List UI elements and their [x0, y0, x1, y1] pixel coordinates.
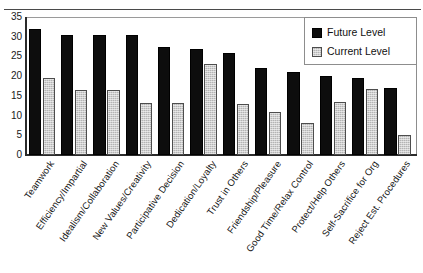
x-tick-label: Teamwork	[23, 159, 56, 201]
y-tick-label: 30	[0, 32, 22, 42]
bar-group	[190, 17, 222, 155]
bar-future-level	[255, 68, 268, 155]
legend-swatch-future-icon	[312, 28, 322, 38]
bar-future-level	[223, 53, 236, 156]
bar-future-level	[126, 35, 139, 155]
y-tick-label: 5	[0, 130, 22, 140]
bar-current-level	[204, 64, 217, 155]
bar-future-level	[384, 88, 397, 155]
bar-group	[93, 17, 125, 155]
bar-current-level	[366, 89, 379, 155]
bar-future-level	[352, 78, 365, 155]
x-axis-labels: TeamworkEfficiency/ImpartialIdealism/Col…	[0, 155, 423, 273]
bar-current-level	[107, 90, 120, 155]
bar-current-level	[334, 102, 347, 155]
bar-group	[158, 17, 190, 155]
y-tick-label: 15	[0, 91, 22, 101]
bar-group	[29, 17, 61, 155]
bar-current-level	[301, 123, 314, 155]
bar-current-level	[398, 135, 411, 155]
bar-current-level	[140, 103, 153, 155]
y-tick-label: 25	[0, 51, 22, 61]
bar-current-level	[172, 103, 185, 155]
bar-current-level	[269, 112, 282, 155]
legend-label-future: Future Level	[327, 27, 385, 38]
bar-future-level	[61, 35, 74, 155]
bar-group	[61, 17, 93, 155]
bar-current-level	[75, 90, 88, 155]
legend-swatch-current-icon	[312, 47, 322, 57]
legend-item-current: Current Level	[312, 43, 416, 60]
bar-group	[126, 17, 158, 155]
x-tick-label: Idealism/Collaboration	[58, 159, 121, 244]
bar-future-level	[29, 29, 42, 155]
legend-label-current: Current Level	[327, 46, 390, 57]
top-divider	[4, 9, 421, 10]
bar-current-level	[237, 104, 250, 155]
bar-future-level	[158, 47, 171, 155]
y-tick-label: 10	[0, 111, 22, 121]
x-tick-label: New Values/Creativity	[91, 159, 153, 242]
bar-group	[255, 17, 287, 155]
bar-future-level	[320, 76, 333, 155]
bar-current-level	[43, 78, 56, 155]
x-tick-label: Participative Decision	[124, 159, 186, 241]
bar-group	[223, 17, 255, 155]
legend-item-future: Future Level	[312, 24, 416, 41]
bar-future-level	[93, 35, 106, 155]
y-tick-label: 35	[0, 12, 22, 22]
chart-legend: Future Level Current Level	[304, 17, 417, 65]
bar-future-level	[190, 49, 203, 155]
y-tick-label: 20	[0, 71, 22, 81]
x-tick-label: Reject Est. Procedures	[347, 159, 412, 246]
bar-future-level	[287, 72, 300, 155]
bar-chart-figure: 05101520253035 Future Level Current Leve…	[0, 0, 423, 273]
